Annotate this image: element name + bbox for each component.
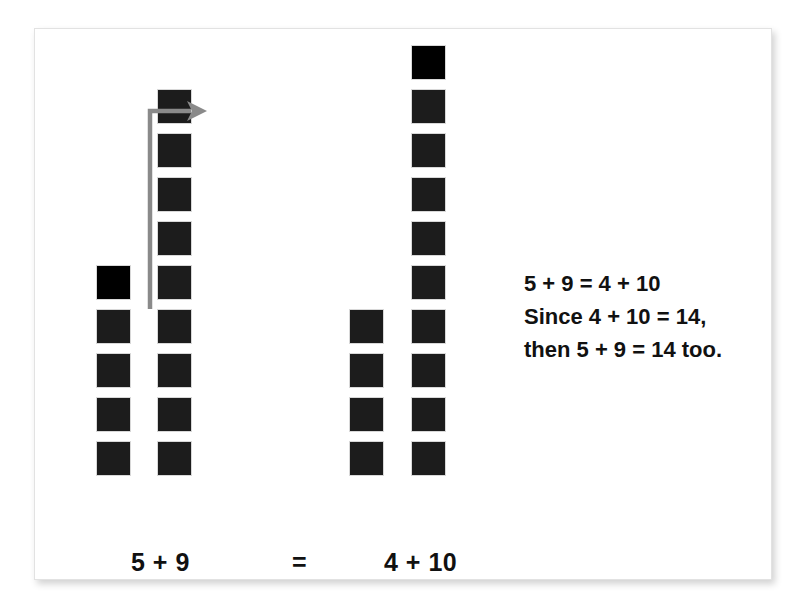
counter-column-5 (97, 29, 130, 581)
explanation-line-1: 5 + 9 = 4 + 10 (524, 267, 774, 300)
counter-square (412, 354, 445, 387)
counter-column-10 (412, 29, 445, 581)
moved-counter (97, 266, 130, 299)
counter-square (412, 178, 445, 211)
explanation-line-3: then 5 + 9 = 14 too. (524, 333, 774, 366)
counter-square (97, 442, 130, 475)
counter-square (350, 442, 383, 475)
counter-square (412, 134, 445, 167)
counter-square (97, 354, 130, 387)
counter-square (158, 442, 191, 475)
moved-counter (412, 46, 445, 79)
counter-square (158, 310, 191, 343)
counter-square (412, 90, 445, 123)
counter-column-4 (350, 29, 383, 581)
counter-square (158, 354, 191, 387)
figure-card: 5 + 9 = 4 + 10 5 + 9 = 4 + 10 Since 4 + … (34, 28, 772, 580)
counter-square (350, 310, 383, 343)
counter-square (158, 398, 191, 431)
counter-square (412, 310, 445, 343)
caption-left-expression: 5 + 9 (131, 548, 190, 577)
counter-square (97, 398, 130, 431)
figure-stage: 5 + 9 = 4 + 10 5 + 9 = 4 + 10 Since 4 + … (0, 0, 806, 609)
move-one-counter-arrow (139, 91, 219, 313)
counter-square (412, 222, 445, 255)
counter-square (412, 398, 445, 431)
counter-square (412, 266, 445, 299)
explanation-text-block: 5 + 9 = 4 + 10 Since 4 + 10 = 14, then 5… (524, 267, 774, 366)
explanation-line-2: Since 4 + 10 = 14, (524, 300, 774, 333)
caption-equals-sign: = (292, 548, 307, 577)
caption-right-expression: 4 + 10 (384, 548, 457, 577)
counter-square (97, 310, 130, 343)
counter-square (350, 398, 383, 431)
counter-square (412, 442, 445, 475)
counter-square (350, 354, 383, 387)
